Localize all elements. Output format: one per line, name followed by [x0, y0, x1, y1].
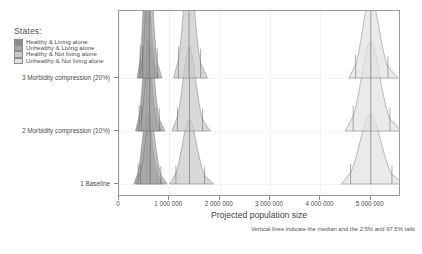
density-area: [136, 116, 167, 184]
density-curve: [174, 11, 208, 78]
x-tick: [168, 196, 169, 200]
density-area: [345, 41, 400, 131]
density-area: [349, 11, 398, 78]
density-curve: [170, 119, 214, 184]
gridline-vertical: [270, 11, 271, 195]
y-tick-label: 1 Baseline: [80, 180, 110, 187]
density-area: [140, 11, 162, 78]
x-tick-label: 4 000 000: [305, 200, 333, 207]
x-tick-label: 5 000 000: [356, 200, 384, 207]
y-tick-label: 2 Morbidity compression (10%): [22, 127, 110, 134]
y-tick: [114, 183, 118, 184]
density-curves: [119, 11, 400, 196]
gridline-vertical: [320, 11, 321, 195]
x-tick-label: 0: [116, 200, 120, 207]
x-axis-tick-labels: 01 000 0002 000 0003 000 0004 000 0005 0…: [0, 200, 422, 210]
x-tick-label: 3 000 000: [255, 200, 283, 207]
gridline-horizontal: [119, 131, 399, 132]
gridline-vertical: [220, 11, 221, 195]
figure-footnote: Vertical lines indicate the median and t…: [118, 226, 415, 232]
gridline-vertical: [169, 11, 170, 195]
gridline-vertical: [371, 11, 372, 195]
density-curve: [138, 44, 165, 131]
density-area: [172, 46, 210, 131]
gridline-horizontal: [119, 184, 399, 185]
gridline-vertical: [119, 11, 120, 195]
x-tick: [370, 196, 371, 200]
y-axis-ticks: [114, 10, 118, 196]
x-tick: [118, 196, 119, 200]
plot-area: [118, 10, 400, 196]
ridgeline-density-figure: States: Healthy & Living alone Unhealthy…: [0, 0, 422, 254]
x-tick: [319, 196, 320, 200]
x-tick: [219, 196, 220, 200]
density-curve: [137, 11, 159, 78]
density-curve: [140, 11, 162, 78]
density-curve: [349, 11, 398, 78]
gridline-horizontal: [119, 78, 399, 79]
density-curve: [134, 111, 163, 184]
density-area: [170, 119, 214, 184]
x-tick-label: 1 000 000: [154, 200, 182, 207]
x-axis-title: Projected population size: [118, 210, 400, 220]
x-tick-label: 2 000 000: [205, 200, 233, 207]
density-curve: [136, 116, 167, 184]
x-tick: [269, 196, 270, 200]
density-curve: [345, 41, 400, 131]
density-area: [136, 39, 162, 131]
density-area: [134, 111, 163, 184]
y-tick: [114, 77, 118, 78]
density-area: [174, 11, 208, 78]
y-tick: [114, 130, 118, 131]
density-curve: [172, 46, 210, 131]
density-curve: [136, 39, 162, 131]
y-tick-label: 3 Morbidity compression (20%): [22, 74, 110, 81]
density-area: [138, 44, 165, 131]
y-axis-tick-labels: 1 Baseline2 Morbidity compression (10%)3…: [0, 10, 112, 196]
density-area: [137, 11, 159, 78]
